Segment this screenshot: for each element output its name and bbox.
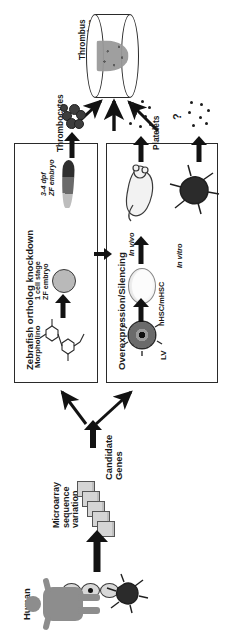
- arrow-microarray-to-candidate-genes: [84, 420, 102, 448]
- human-label: Human: [22, 588, 32, 620]
- arrow-human-to-microarray: [86, 530, 108, 572]
- arrow-hsc-to-mouse: [133, 236, 149, 264]
- arrow-morpholino-to-embryo: [55, 294, 71, 318]
- blood-cell-graphic: [81, 583, 100, 598]
- one-cell-embryo-graphic: [52, 269, 76, 293]
- candidate-genes-label: Candidate Genes: [104, 435, 124, 480]
- arrow-embryo-to-thrombocytes: [64, 132, 80, 158]
- microarray-chips: [77, 480, 119, 532]
- platelet-specks-in-vivo: [128, 100, 154, 132]
- cell-nucleus: [69, 588, 74, 593]
- arrow-zebrafish-to-overexpression: [94, 249, 112, 259]
- arrow-megakaryocyte-to-platelets: [191, 136, 207, 162]
- blood-cell-graphic: [62, 583, 81, 598]
- one-cell-stage-label: 1 cell stage ZF embryo: [34, 261, 50, 300]
- in-vitro-label: In vitro: [176, 243, 184, 268]
- figure-canvas: Thrombus Formation ? Zebrafish ortholog …: [0, 0, 230, 643]
- platelet-specks-in-vitro: [186, 100, 212, 132]
- arrow-mouse-to-platelets: [133, 136, 149, 162]
- morpholino-label: Morpholino: [34, 326, 42, 368]
- uncertainty-question-mark: ?: [172, 113, 184, 120]
- hsc-label: hHSC/mHSC: [158, 282, 166, 326]
- zf-embryo-stage-label: 3-4 dpf ZF embryo: [40, 159, 56, 196]
- cell-nucleus: [88, 588, 93, 593]
- thrombocyte-cluster: [60, 103, 86, 129]
- arrow-lv-to-hsc: [133, 298, 149, 322]
- overexpression-panel-title: Overexpression/Silencing: [117, 252, 127, 370]
- lentivirus-label: LV: [160, 350, 169, 360]
- blood-vessel-graphic: [95, 14, 130, 98]
- lentivirus-graphic: [129, 322, 155, 348]
- red-blood-cell-graphic: [100, 583, 119, 598]
